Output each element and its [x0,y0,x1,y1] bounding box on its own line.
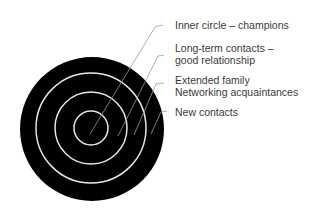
label-inner-circle: Inner circle – champions [175,19,289,31]
label-new-contacts: New contacts [175,106,238,118]
label-extended-family: Extended family Networking acquaintances [175,74,298,98]
network-circles-diagram [0,0,311,216]
label-long-term-contacts: Long-term contacts – good relationship [175,42,274,66]
outer-circle-new-contacts [20,57,164,201]
